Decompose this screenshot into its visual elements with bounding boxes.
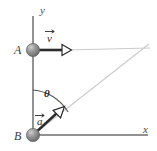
physics-diagram-figure: y x θ v a A B (0, 0, 157, 151)
diagonal-line-of-sight (33, 44, 149, 135)
velocity-vector-label: v (47, 32, 52, 44)
y-axis-label: y (39, 4, 45, 16)
body-a-label: A (13, 43, 22, 57)
body-b-ball (26, 128, 39, 141)
x-axis-label: x (142, 123, 148, 135)
diagram-canvas: y x θ v a A B (0, 0, 157, 151)
body-b-label: B (14, 129, 22, 143)
theta-label: θ (44, 87, 50, 99)
velocity-vector-arrowhead (62, 45, 72, 56)
body-a-ball (26, 43, 39, 56)
horizontal-trajectory-line (66, 48, 150, 50)
